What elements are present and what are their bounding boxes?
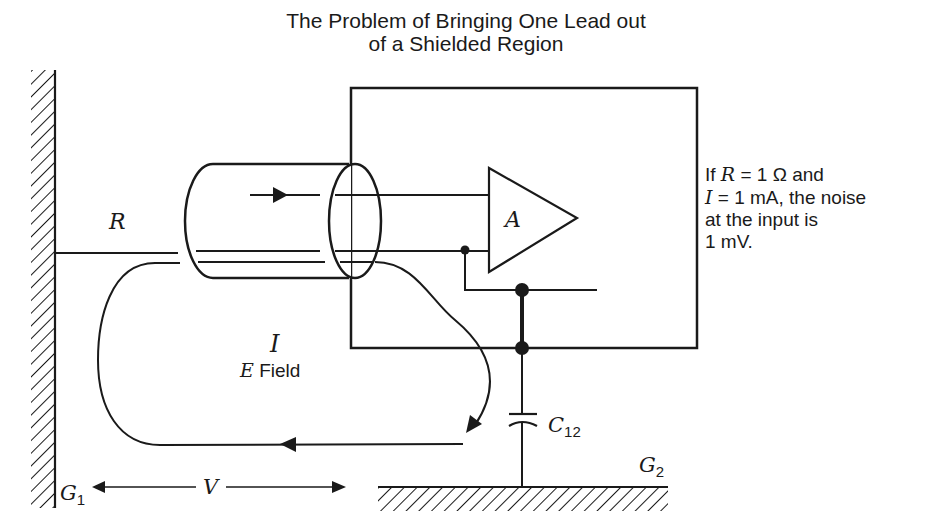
note-line4: 1 mV. — [705, 231, 866, 253]
note-line1: If R = 1 Ω and — [705, 163, 866, 186]
resistance-label: R — [108, 209, 126, 234]
ground-plane-g2 — [378, 487, 668, 511]
capacitor-c12 — [509, 348, 537, 487]
voltage-label: V — [203, 475, 220, 499]
ground2-label: G2 — [639, 453, 664, 480]
ground1-label: G1 — [60, 481, 85, 508]
ground-wall-g1 — [31, 70, 55, 508]
ground-loop-arrow-icon — [280, 437, 296, 452]
shielded-lead-diagram: R A I E Field C12 V G1 G2 — [0, 0, 932, 527]
e-field-label: E Field — [239, 359, 300, 381]
note-line3: at the input is — [705, 209, 866, 231]
arrow-right-icon — [332, 481, 346, 493]
amplifier-label: A — [503, 207, 521, 232]
voltage-indicator — [92, 481, 346, 493]
noise-note: If R = 1 Ω and I = 1 mA, the noise at th… — [705, 163, 866, 253]
capacitor-label: C12 — [548, 413, 581, 440]
note-line2: I = 1 mA, the noise — [705, 186, 866, 209]
shield-junction-dot — [515, 283, 529, 297]
current-label: I — [269, 330, 280, 358]
arrow-left-icon — [92, 481, 105, 493]
